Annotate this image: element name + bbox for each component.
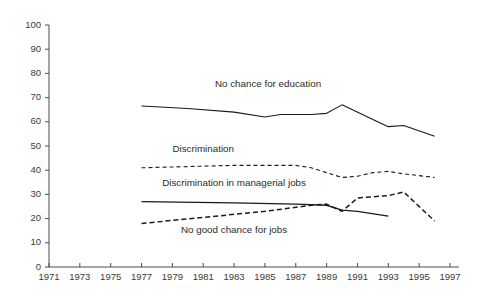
- x-tick-label: 1973: [69, 271, 90, 282]
- y-tick-label: 30: [30, 188, 41, 199]
- x-tick-label: 1983: [224, 271, 245, 282]
- series-label-3: No good chance for jobs: [181, 224, 287, 235]
- series-line-0: [142, 105, 435, 136]
- line-chart: 0102030405060708090100197119731975197719…: [0, 0, 482, 304]
- x-tick-label: 1995: [409, 271, 430, 282]
- x-tick-label: 1987: [285, 271, 306, 282]
- y-tick-label: 70: [30, 91, 41, 102]
- x-tick-label: 1981: [193, 271, 214, 282]
- y-tick-label: 50: [30, 140, 41, 151]
- series-line-1: [142, 165, 435, 177]
- x-tick-label: 1979: [162, 271, 183, 282]
- x-tick-label: 1989: [316, 271, 337, 282]
- y-tick-label: 20: [30, 212, 41, 223]
- y-tick-label: 90: [30, 43, 41, 54]
- y-tick-label: 0: [36, 261, 41, 272]
- series-label-2: Discrimination in managerial jobs: [162, 177, 306, 188]
- x-tick-label: 1975: [100, 271, 121, 282]
- y-tick-label: 100: [25, 19, 41, 30]
- series-label-1: Discrimination: [172, 143, 234, 154]
- y-tick-label: 60: [30, 115, 41, 126]
- y-tick-label: 80: [30, 67, 41, 78]
- y-tick-label: 40: [30, 164, 41, 175]
- chart-canvas: 0102030405060708090100197119731975197719…: [0, 0, 482, 304]
- x-tick-label: 1985: [254, 271, 275, 282]
- x-tick-label: 1971: [38, 271, 59, 282]
- x-tick-label: 1991: [347, 271, 368, 282]
- y-tick-label: 10: [30, 236, 41, 247]
- series-label-0: No chance for education: [215, 78, 321, 89]
- x-tick-label: 1993: [378, 271, 399, 282]
- x-tick-label: 1997: [439, 271, 460, 282]
- x-tick-label: 1977: [131, 271, 152, 282]
- series-line-2: [142, 202, 389, 217]
- series-line-3: [142, 192, 435, 223]
